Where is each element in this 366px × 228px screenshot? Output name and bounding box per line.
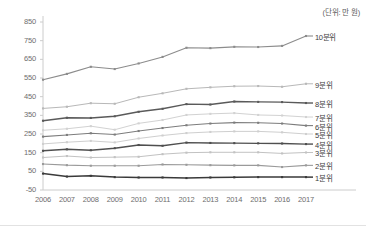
- x-axis-tick-label: 2016: [269, 195, 295, 204]
- series-label-8분위: 8분위: [315, 98, 332, 109]
- data-point-marker: [42, 163, 44, 165]
- data-point-marker: [185, 152, 187, 154]
- data-point-marker: [161, 127, 163, 129]
- data-point-marker: [209, 86, 211, 88]
- data-point-marker: [257, 46, 259, 48]
- data-point-marker: [233, 151, 235, 153]
- x-axis-tick-label: 2014: [221, 195, 247, 204]
- data-point-marker: [90, 125, 92, 127]
- data-point-marker: [161, 56, 163, 58]
- data-point-marker: [42, 143, 44, 145]
- data-point-marker: [233, 100, 235, 102]
- series-label-10분위: 10분위: [315, 31, 336, 42]
- series-line-7분위: [43, 113, 306, 130]
- data-point-marker: [138, 62, 140, 64]
- data-point-marker: [66, 141, 68, 143]
- data-point-marker: [138, 165, 140, 167]
- data-point-marker: [114, 141, 116, 143]
- data-point-marker: [66, 117, 68, 119]
- data-point-marker: [138, 137, 140, 139]
- series-line-1분위: [43, 174, 306, 178]
- data-point-marker: [281, 131, 283, 133]
- data-point-marker: [161, 163, 163, 165]
- data-point-marker: [281, 86, 283, 88]
- data-point-marker: [257, 130, 259, 132]
- plot-area: [0, 0, 366, 228]
- data-point-marker: [209, 176, 211, 178]
- data-point-marker: [138, 176, 140, 178]
- series-label-3분위: 3분위: [315, 147, 332, 158]
- y-axis-tick-label: 850: [10, 17, 36, 26]
- data-point-marker: [114, 176, 116, 178]
- data-point-marker: [90, 165, 92, 167]
- data-point-marker: [281, 114, 283, 116]
- x-axis-tick-label: 2009: [102, 195, 128, 204]
- data-point-marker: [257, 176, 259, 178]
- data-point-marker: [161, 145, 163, 147]
- data-point-marker: [161, 153, 163, 155]
- y-axis-tick-label: 450: [10, 92, 36, 101]
- data-point-marker: [66, 164, 68, 166]
- data-point-marker: [114, 115, 116, 117]
- data-point-marker: [185, 142, 187, 144]
- data-point-marker: [281, 122, 283, 124]
- data-point-marker: [114, 103, 116, 105]
- series-line-4분위: [43, 143, 306, 151]
- data-point-marker: [185, 164, 187, 166]
- data-point-marker: [233, 176, 235, 178]
- data-point-marker: [257, 101, 259, 103]
- data-point-marker: [281, 101, 283, 103]
- data-point-marker: [42, 79, 44, 81]
- data-point-marker: [185, 124, 187, 126]
- y-axis-tick-label: 550: [10, 73, 36, 82]
- data-point-marker: [257, 151, 259, 153]
- data-point-marker: [209, 151, 211, 153]
- x-axis-tick-label: 2017: [293, 195, 319, 204]
- data-point-marker: [233, 46, 235, 48]
- x-axis-tick-label: 2013: [197, 195, 223, 204]
- series-line-9분위: [43, 84, 306, 109]
- data-point-marker: [114, 165, 116, 167]
- data-point-marker: [281, 176, 283, 178]
- series-line-5분위: [43, 131, 306, 144]
- data-point-marker: [185, 177, 187, 179]
- x-axis-tick-label: 2011: [150, 195, 176, 204]
- data-point-marker: [185, 47, 187, 49]
- data-point-marker: [90, 102, 92, 104]
- data-point-marker: [66, 73, 68, 75]
- data-point-marker: [209, 142, 211, 144]
- data-point-marker: [114, 129, 116, 131]
- data-point-marker: [257, 164, 259, 166]
- data-point-marker: [185, 103, 187, 105]
- bottom-divider: [0, 225, 366, 226]
- data-point-marker: [90, 140, 92, 142]
- data-point-marker: [233, 130, 235, 132]
- data-point-marker: [90, 175, 92, 177]
- x-axis-tick-label: 2008: [78, 195, 104, 204]
- y-axis-tick-label: 650: [10, 54, 36, 63]
- data-point-marker: [209, 47, 211, 49]
- x-axis-tick-label: 2012: [173, 195, 199, 204]
- series-label-1분위: 1분위: [315, 172, 332, 183]
- series-label-2분위: 2분위: [315, 160, 332, 171]
- data-point-marker: [233, 142, 235, 144]
- data-point-marker: [66, 128, 68, 130]
- data-point-marker: [114, 156, 116, 158]
- data-point-marker: [233, 112, 235, 114]
- y-axis-tick-label: 150: [10, 148, 36, 157]
- data-point-marker: [138, 144, 140, 146]
- data-point-marker: [90, 117, 92, 119]
- data-point-marker: [90, 149, 92, 151]
- data-point-marker: [114, 68, 116, 70]
- series-line-2분위: [43, 164, 306, 167]
- data-point-marker: [42, 150, 44, 152]
- y-axis-tick-label: 250: [10, 129, 36, 138]
- data-point-marker: [161, 92, 163, 94]
- data-point-marker: [138, 96, 140, 98]
- data-point-marker: [90, 132, 92, 134]
- data-point-marker: [66, 155, 68, 157]
- data-point-marker: [66, 176, 68, 178]
- data-point-marker: [161, 108, 163, 110]
- data-point-marker: [90, 66, 92, 68]
- data-point-marker: [257, 85, 259, 87]
